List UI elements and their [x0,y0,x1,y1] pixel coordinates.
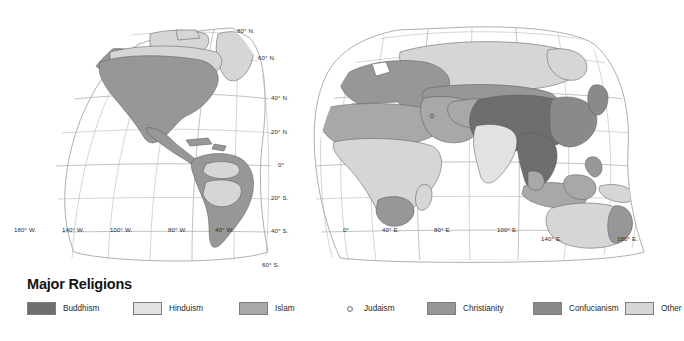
legend-swatch-confucianism [533,302,562,315]
legend-item-islam[interactable]: Islam [239,299,295,317]
legend-swatch-other [625,302,654,315]
legend-swatch-buddhism [27,302,56,315]
legend-item-christianity[interactable]: Christianity [427,299,504,317]
legend-label: Islam [275,302,295,315]
region-new-zealand [642,221,658,247]
legend-item-other[interactable]: Other [625,299,681,317]
legend-swatch-islam [239,302,268,315]
svg-text:40° N.: 40° N. [271,94,289,101]
legend-label: Judaism [364,302,395,315]
legend-swatch-christianity [427,302,456,315]
svg-text:180° W.: 180° W. [14,226,37,233]
legend-item-judaism[interactable]: Judaism [345,299,395,317]
legend-item-hinduism[interactable]: Hinduism [133,299,203,317]
svg-text:100° W.: 100° W. [110,226,133,233]
svg-text:40° S.: 40° S. [271,227,289,234]
eastern-hemisphere: 0° 40° E. 80° E. 100° E. 140° E. 180° E. [314,27,658,263]
svg-text:60° S.: 60° S. [262,261,280,268]
map-legend: Major Religions BuddhismHinduismIslamJud… [0,268,684,341]
svg-text:140° E.: 140° E. [541,235,562,242]
svg-text:80° W.: 80° W. [168,226,187,233]
svg-text:100° E.: 100° E. [497,226,518,233]
svg-text:0°: 0° [278,161,285,168]
svg-text:20° S.: 20° S. [271,194,289,201]
svg-text:60° N.: 60° N. [258,54,276,61]
legend-item-buddhism[interactable]: Buddhism [27,299,99,317]
legend-item-confucianism[interactable]: Confucianism [533,299,619,317]
world-map-svg: 80° N. 60° N. 40° N. 20° N. 0° 20° S. 40… [0,0,684,268]
legend-label: Other [661,302,681,315]
region-arctic-islands [176,30,200,40]
map-canvas: 80° N. 60° N. 40° N. 20° N. 0° 20° S. 40… [0,0,684,268]
legend-label: Hinduism [169,302,203,315]
legend-item-list: BuddhismHinduismIslamJudaismChristianity… [27,299,677,319]
legend-swatch-hinduism [133,302,162,315]
legend-label: Confucianism [569,302,619,315]
judaism-point-icon [345,302,357,315]
world-religions-map-page: 80° N. 60° N. 40° N. 20° N. 0° 20° S. 40… [0,0,684,341]
legend-title: Major Religions [27,276,132,292]
svg-text:0°: 0° [343,226,350,233]
western-hemisphere: 80° N. 60° N. 40° N. 20° N. 0° 20° S. 40… [14,27,289,268]
region-southern-africa [376,197,414,227]
svg-text:180° E.: 180° E. [617,235,638,242]
region-amazon [203,162,240,179]
svg-text:40° E.: 40° E. [382,226,400,233]
svg-text:80° E.: 80° E. [434,226,452,233]
svg-text:140° W.: 140° W. [62,226,85,233]
legend-label: Christianity [463,302,504,315]
svg-text:20° N.: 20° N. [271,128,289,135]
svg-text:40° W.: 40° W. [215,226,234,233]
legend-label: Buddhism [63,302,99,315]
svg-text:80° N.: 80° N. [237,27,255,34]
